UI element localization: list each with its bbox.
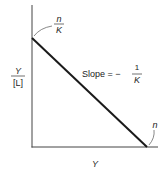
y-axis-label-numerator: Y xyxy=(15,66,22,76)
y-intercept-leader xyxy=(34,26,52,36)
y-axis-label-denominator: [L] xyxy=(13,78,23,88)
scatchard-line xyxy=(32,38,147,147)
x-intercept-leader xyxy=(149,130,154,145)
scatchard-plot: n K Slope = − 1 K n Y [L] Y xyxy=(0,0,167,178)
x-intercept-label: n xyxy=(152,120,157,130)
slope-label: Slope = − xyxy=(82,69,121,79)
y-intercept-numerator: n xyxy=(56,14,61,24)
x-axis-label: Y xyxy=(92,159,99,169)
y-intercept-denominator: K xyxy=(56,25,63,35)
slope-denominator: K xyxy=(134,75,141,85)
slope-numerator: 1 xyxy=(135,63,140,72)
